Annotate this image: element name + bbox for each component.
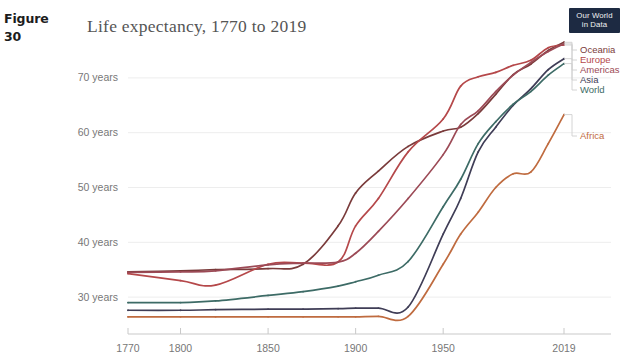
data-point xyxy=(460,198,462,200)
x-tick-label: 1850 xyxy=(256,342,280,354)
data-point xyxy=(407,145,409,147)
data-point xyxy=(215,284,217,286)
series-line-world[interactable] xyxy=(128,64,564,303)
x-tick-label: 1950 xyxy=(432,342,456,354)
data-point xyxy=(355,252,357,254)
data-point xyxy=(355,316,357,318)
data-point xyxy=(302,291,304,293)
data-point xyxy=(267,316,269,318)
data-point xyxy=(530,59,532,61)
figure-number: 30 xyxy=(4,28,66,46)
data-point xyxy=(127,302,129,304)
data-point xyxy=(215,309,217,311)
data-point xyxy=(477,151,479,153)
legend-connector-world xyxy=(564,64,577,90)
data-point xyxy=(495,121,497,123)
data-series xyxy=(127,41,565,320)
data-point xyxy=(547,69,549,71)
data-point xyxy=(180,271,182,273)
legend-connector-europe xyxy=(564,45,577,60)
data-point xyxy=(547,47,549,49)
data-point xyxy=(377,230,379,232)
x-axis xyxy=(128,328,611,334)
data-point xyxy=(302,262,304,264)
data-point xyxy=(377,315,379,317)
data-point xyxy=(180,316,182,318)
data-point xyxy=(495,72,497,74)
data-point xyxy=(512,74,514,76)
series-line-asia[interactable] xyxy=(128,59,564,313)
data-point xyxy=(377,198,379,200)
data-point xyxy=(477,76,479,78)
series-line-europe[interactable] xyxy=(128,45,564,286)
data-point xyxy=(442,154,444,156)
data-point xyxy=(530,88,532,90)
figure-caption: Figure 30 xyxy=(4,10,66,46)
data-point xyxy=(377,170,379,172)
legend-item-world[interactable]: World xyxy=(580,84,605,95)
data-point xyxy=(495,93,497,95)
chart-card: Life expectancy, 1770 to 2019 Our World … xyxy=(66,0,624,363)
data-point xyxy=(180,280,182,282)
data-point xyxy=(512,173,514,175)
data-point xyxy=(477,211,479,213)
legend-connector-americas xyxy=(564,44,577,70)
data-point xyxy=(442,263,444,265)
data-point xyxy=(302,316,304,318)
data-point xyxy=(407,315,409,317)
data-point xyxy=(267,295,269,297)
data-point xyxy=(337,308,339,310)
data-point xyxy=(407,198,409,200)
legend-connector-asia xyxy=(564,59,577,80)
figure-caption-word: Figure xyxy=(4,11,49,26)
y-tick-label: 70 years xyxy=(78,71,118,83)
data-point xyxy=(460,233,462,235)
data-point xyxy=(180,309,182,311)
data-point xyxy=(215,270,217,272)
data-point xyxy=(215,300,217,302)
data-point xyxy=(407,151,409,153)
data-point xyxy=(530,62,532,64)
data-point xyxy=(355,192,357,194)
x-tick-label: 1800 xyxy=(169,342,193,354)
data-point xyxy=(337,261,339,263)
data-point xyxy=(495,187,497,189)
data-point xyxy=(180,302,182,304)
data-point xyxy=(442,118,444,120)
series-line-africa[interactable] xyxy=(128,115,564,321)
data-point xyxy=(495,91,497,93)
y-tick-label: 60 years xyxy=(78,126,118,138)
data-point xyxy=(337,285,339,287)
data-point xyxy=(355,225,357,227)
data-point xyxy=(547,74,549,76)
data-point xyxy=(547,51,549,53)
series-line-oceania[interactable] xyxy=(128,42,564,272)
legend-item-africa[interactable]: Africa xyxy=(580,130,605,141)
y-axis-tick-labels: 30 years40 years50 years60 years70 years xyxy=(78,71,118,302)
data-point xyxy=(407,306,409,308)
data-point xyxy=(512,64,514,66)
data-point xyxy=(302,308,304,310)
data-point xyxy=(477,113,479,115)
line-chart-plot: 30 years40 years50 years60 years70 years… xyxy=(66,0,624,363)
data-point xyxy=(267,264,269,266)
data-point xyxy=(127,316,129,318)
data-point xyxy=(512,103,514,105)
data-point xyxy=(547,143,549,145)
y-tick-label: 40 years xyxy=(78,236,118,248)
chart-legend[interactable]: OceaniaEuropeAmericasAsiaWorldAfrica xyxy=(564,42,620,141)
data-point xyxy=(377,274,379,276)
data-point xyxy=(127,272,129,274)
x-tick-label: 1900 xyxy=(344,342,368,354)
data-point xyxy=(460,124,462,126)
data-point xyxy=(530,91,532,93)
data-point xyxy=(355,281,357,283)
data-point xyxy=(267,268,269,270)
data-point xyxy=(407,261,409,263)
data-point xyxy=(477,110,479,112)
data-point xyxy=(127,309,129,311)
data-point xyxy=(495,126,497,128)
data-point xyxy=(530,171,532,173)
data-point xyxy=(477,143,479,145)
data-point xyxy=(442,130,444,132)
